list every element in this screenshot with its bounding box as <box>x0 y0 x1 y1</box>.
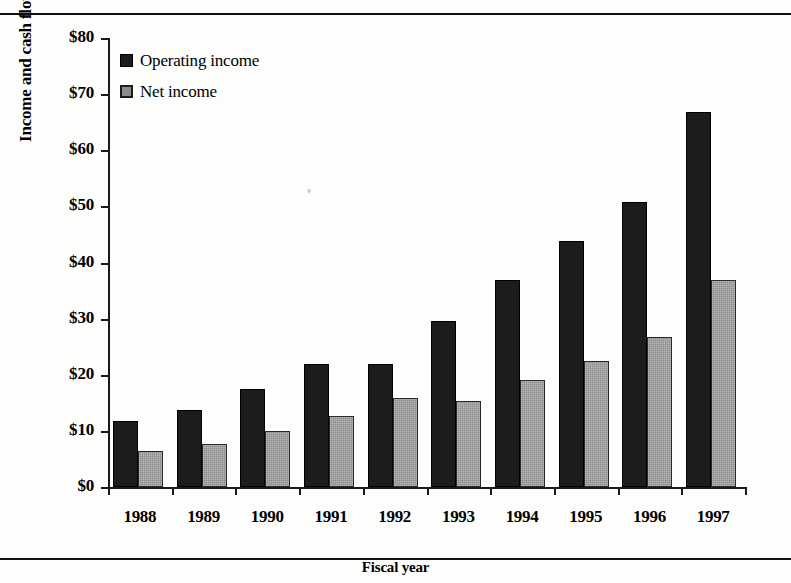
x-axis-tick <box>745 487 747 495</box>
x-axis-tick <box>108 487 110 495</box>
bar-operating-income <box>559 241 584 487</box>
x-axis-title: Fiscal year <box>0 559 791 576</box>
bar-net-income <box>138 451 163 487</box>
x-axis-tick-label: 1996 <box>614 508 684 526</box>
legend-item-net-income: Net income <box>120 83 259 100</box>
x-axis-tick-label: 1988 <box>105 508 175 526</box>
x-axis-tick-label: 1994 <box>487 508 557 526</box>
bar-operating-income <box>431 321 456 487</box>
bar-net-income <box>329 416 354 487</box>
y-axis-title-label: Income and cash flow in millions <box>16 0 36 142</box>
legend-item-operating-income: Operating income <box>120 52 259 69</box>
x-axis-tick <box>299 487 301 495</box>
legend-swatch-operating-income <box>120 54 133 67</box>
y-axis-tick-label: $40 <box>69 253 94 270</box>
x-axis-tick-label: 1991 <box>296 508 366 526</box>
x-axis-tick <box>681 487 683 495</box>
bar-operating-income <box>177 410 202 487</box>
bar-net-income <box>520 380 545 487</box>
y-axis-title: Income and cash flow in millions <box>16 0 36 142</box>
x-axis-tick-label: 1995 <box>551 508 621 526</box>
x-axis-tick-label: 1992 <box>360 508 430 526</box>
x-axis-tick <box>554 487 556 495</box>
x-axis-tick <box>618 487 620 495</box>
y-axis-tick: $40 <box>101 263 108 265</box>
y-axis-tick-label: $10 <box>69 421 94 438</box>
bar-net-income <box>584 361 609 487</box>
y-axis-tick-label: $20 <box>69 365 94 382</box>
x-axis-tick-label: 1989 <box>169 508 239 526</box>
legend-label-net-income: Net income <box>140 83 217 100</box>
y-axis-tick-label: $30 <box>69 309 94 326</box>
y-axis-tick-label: $80 <box>69 28 94 45</box>
chart-legend: Operating income Net income <box>120 52 259 114</box>
y-axis-tick: $80 <box>101 38 108 40</box>
bar-net-income <box>202 444 227 487</box>
y-axis-tick: $60 <box>101 150 108 152</box>
bar-operating-income <box>304 364 329 487</box>
page-top-rule <box>0 13 791 15</box>
y-axis-tick: $0 <box>101 487 108 489</box>
x-axis-tick <box>427 487 429 495</box>
bar-operating-income <box>113 421 138 487</box>
bar-net-income <box>265 431 290 487</box>
legend-swatch-net-income <box>120 85 133 98</box>
x-axis-tick-label: 1997 <box>678 508 748 526</box>
bar-net-income <box>393 398 418 487</box>
y-axis-tick-label: $60 <box>69 140 94 157</box>
y-axis-tick-label: $70 <box>69 84 94 101</box>
bar-operating-income <box>240 389 265 487</box>
page-canvas: Income and cash flow in millions $0$10$2… <box>0 0 791 583</box>
bar-operating-income <box>368 364 393 487</box>
bar-net-income <box>711 280 736 487</box>
x-axis-tick-label: 1993 <box>423 508 493 526</box>
x-axis-tick <box>235 487 237 495</box>
y-axis-tick-label: $50 <box>69 196 94 213</box>
y-axis-tick-label: $0 <box>77 477 94 494</box>
x-axis-tick-label: 1990 <box>232 508 302 526</box>
y-axis-tick: $30 <box>101 319 108 321</box>
y-axis-tick: $20 <box>101 375 108 377</box>
bar-net-income <box>456 401 481 487</box>
y-axis-tick: $70 <box>101 94 108 96</box>
x-axis-tick <box>172 487 174 495</box>
bar-operating-income <box>686 112 711 487</box>
bar-net-income <box>647 337 672 487</box>
x-axis-tick <box>363 487 365 495</box>
bar-chart: Income and cash flow in millions $0$10$2… <box>0 22 791 522</box>
legend-label-operating-income: Operating income <box>140 52 259 69</box>
x-axis-tick <box>490 487 492 495</box>
y-axis-tick: $50 <box>101 206 108 208</box>
y-axis-line <box>108 38 110 487</box>
y-axis-tick: $10 <box>101 431 108 433</box>
bar-operating-income <box>622 202 647 487</box>
bar-operating-income <box>495 280 520 487</box>
